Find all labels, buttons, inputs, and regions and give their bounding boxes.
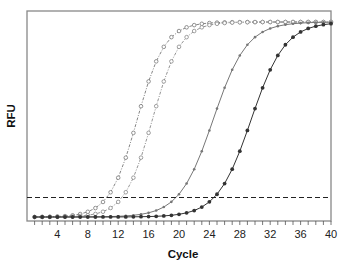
data-point-marker	[154, 104, 158, 108]
data-point-marker	[86, 215, 90, 219]
x-axis-ticks: 481216202428323640	[35, 221, 338, 240]
x-tick-label: 28	[234, 228, 246, 240]
data-point-marker	[239, 54, 242, 57]
data-point-marker	[261, 31, 264, 34]
data-point-marker	[170, 201, 173, 204]
data-point-marker	[208, 200, 212, 204]
data-point-marker	[40, 215, 44, 219]
x-tick-label: 24	[203, 228, 215, 240]
data-point-marker	[116, 176, 120, 180]
data-point-marker	[200, 205, 204, 209]
data-point-marker	[177, 45, 181, 49]
data-point-marker	[291, 35, 295, 39]
x-tick-label: 12	[112, 228, 124, 240]
data-point-marker	[124, 215, 128, 219]
data-point-marker	[170, 60, 174, 64]
data-point-marker	[147, 212, 150, 215]
data-point-marker	[192, 23, 196, 27]
data-point-marker	[192, 29, 196, 33]
data-point-marker	[116, 200, 120, 204]
data-point-marker	[155, 209, 158, 212]
data-point-marker	[147, 131, 151, 135]
data-point-marker	[208, 23, 212, 27]
data-point-marker	[185, 182, 188, 185]
data-point-marker	[124, 156, 128, 160]
data-point-marker	[238, 149, 242, 153]
data-point-marker	[154, 60, 158, 64]
data-point-marker	[162, 214, 166, 218]
data-point-marker	[246, 129, 250, 133]
data-point-marker	[216, 107, 219, 110]
data-point-marker	[215, 192, 219, 196]
data-point-marker	[71, 215, 75, 219]
data-point-marker	[56, 215, 60, 219]
x-tick-label: 16	[142, 228, 154, 240]
data-point-marker	[223, 182, 227, 186]
data-point-marker	[261, 86, 265, 90]
data-point-marker	[170, 213, 174, 217]
data-point-marker	[268, 20, 272, 24]
data-point-marker	[94, 206, 98, 210]
data-point-marker	[223, 21, 227, 25]
data-point-marker	[299, 22, 302, 25]
x-tick-label: 40	[325, 228, 337, 240]
x-tick-label: 20	[173, 228, 185, 240]
data-point-marker	[276, 20, 280, 24]
data-point-marker	[139, 104, 143, 108]
data-point-marker	[322, 23, 326, 27]
data-point-marker	[78, 215, 82, 219]
data-point-marker	[177, 212, 181, 216]
data-point-marker	[132, 215, 136, 219]
data-point-marker	[231, 68, 234, 71]
data-point-marker	[223, 86, 226, 89]
data-point-marker	[208, 129, 211, 132]
data-point-marker	[147, 215, 151, 219]
data-point-marker	[329, 22, 333, 26]
x-tick-label: 4	[54, 228, 60, 240]
data-point-marker	[200, 22, 204, 26]
data-point-marker	[101, 210, 105, 214]
data-point-marker	[230, 167, 234, 171]
data-point-marker	[63, 215, 67, 219]
data-point-marker	[254, 36, 257, 39]
data-point-marker	[246, 20, 250, 24]
data-point-marker	[284, 43, 288, 47]
data-point-marker	[276, 54, 280, 58]
data-point-marker	[162, 80, 166, 84]
data-point-marker	[163, 206, 166, 209]
data-point-marker	[253, 107, 257, 111]
data-point-marker	[177, 29, 181, 33]
x-tick-label: 32	[264, 228, 276, 240]
data-point-marker	[215, 22, 219, 26]
data-point-marker	[238, 21, 242, 25]
data-point-marker	[33, 215, 37, 219]
plot-frame	[27, 11, 331, 221]
data-point-marker	[277, 25, 280, 28]
data-point-marker	[170, 35, 174, 39]
x-tick-label: 8	[85, 228, 91, 240]
data-point-marker	[314, 24, 318, 28]
amplification-chart: 481216202428323640 RFU Cycle	[0, 0, 346, 266]
data-point-marker	[185, 26, 189, 30]
data-point-marker	[109, 215, 113, 219]
data-point-marker	[139, 156, 143, 160]
data-point-marker	[292, 22, 295, 25]
y-axis-title: RFU	[5, 104, 17, 128]
data-point-marker	[185, 35, 189, 39]
data-point-marker	[162, 45, 166, 49]
data-point-marker	[147, 80, 151, 84]
data-point-marker	[253, 20, 257, 24]
data-point-marker	[201, 150, 204, 153]
data-point-marker	[284, 20, 288, 24]
data-point-marker	[192, 209, 196, 213]
data-point-marker	[284, 23, 287, 26]
data-point-marker	[139, 215, 143, 219]
data-point-marker	[261, 20, 265, 24]
data-point-marker	[315, 21, 318, 24]
data-point-marker	[307, 21, 310, 24]
data-point-marker	[101, 215, 105, 219]
x-tick-label: 36	[294, 228, 306, 240]
data-point-marker	[246, 43, 249, 46]
data-point-marker	[109, 190, 113, 194]
data-point-marker	[306, 27, 310, 31]
